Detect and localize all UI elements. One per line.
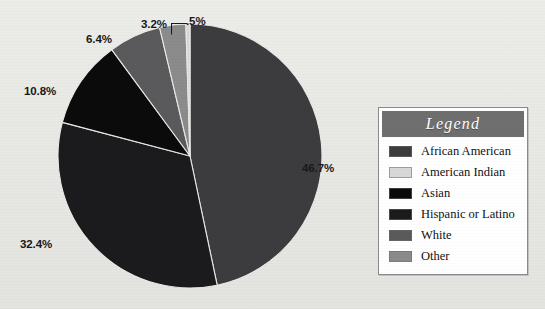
legend-swatch-american-indian (389, 167, 412, 178)
pie-label-african-american: 46.7% (302, 162, 334, 174)
pie-label-other: 3.2% (141, 18, 167, 30)
pie-chart-svg (56, 22, 324, 290)
pie-slice-african-american (190, 24, 322, 285)
legend-swatch-hispanic-or-latino (389, 209, 412, 220)
legend-title: Legend (382, 111, 524, 137)
legend-swatch-african-american (389, 146, 412, 157)
legend-item-list: African AmericanAmerican IndianAsianHisp… (382, 137, 524, 267)
legend-box: Legend African AmericanAmerican IndianAs… (378, 107, 528, 275)
legend-item-label: Asian (421, 187, 450, 200)
pie-label-hispanic-or-latino: 32.4% (20, 238, 52, 250)
pie-slice-group (58, 24, 322, 288)
legend-swatch-white (389, 230, 412, 241)
chart-canvas: 46.7% 32.4% 10.8% 6.4% 3.2% .5% Legend A… (0, 0, 545, 309)
pie-label-white: 6.4% (86, 33, 112, 45)
legend-item-label: American Indian (421, 166, 505, 179)
legend-item: Other (382, 246, 524, 267)
legend-item: Hispanic or Latino (382, 204, 524, 225)
legend-item-label: African American (421, 145, 511, 158)
legend-swatch-other (389, 251, 412, 262)
legend-item: Asian (382, 183, 524, 204)
legend-item-label: Other (421, 250, 449, 263)
legend-swatch-asian (389, 188, 412, 199)
legend-item-label: White (421, 229, 452, 242)
legend-item: American Indian (382, 162, 524, 183)
pie-label-american-indian: .5% (186, 15, 206, 27)
pie-label-asian: 10.8% (24, 85, 56, 97)
legend-inner: Legend African AmericanAmerican IndianAs… (382, 111, 524, 271)
legend-item: African American (382, 141, 524, 162)
legend-item: White (382, 225, 524, 246)
legend-item-label: Hispanic or Latino (421, 208, 515, 221)
pie-chart (56, 22, 324, 290)
